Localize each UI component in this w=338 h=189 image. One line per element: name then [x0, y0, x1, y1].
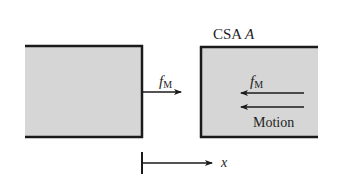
left-block	[25, 45, 143, 138]
x-axis-label: x	[220, 155, 228, 170]
motion-label: Motion	[253, 115, 294, 130]
diagram-canvas: CSA A fM fM Motion x	[0, 0, 338, 189]
force-label-left: fM	[159, 73, 172, 90]
x-axis	[142, 152, 212, 174]
cross-section-area-label: CSA A	[213, 26, 255, 42]
